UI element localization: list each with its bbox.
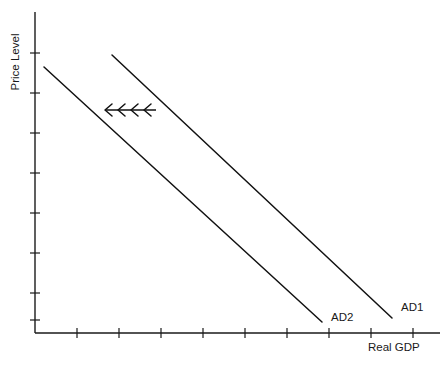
curve-label-ad1: AD1 bbox=[401, 301, 423, 313]
x-axis-title: Real GDP bbox=[368, 341, 420, 353]
leftward-shift-arrow bbox=[105, 104, 156, 116]
y-axis bbox=[30, 12, 40, 333]
curve-label-ad2: AD2 bbox=[331, 311, 353, 323]
y-axis-title: Price Level bbox=[9, 26, 21, 98]
x-axis bbox=[35, 328, 440, 338]
chart-plot-area bbox=[0, 0, 446, 370]
curve-ad2 bbox=[44, 67, 322, 322]
aggregate-demand-shift-chart: Price Level Real GDP AD2 AD1 bbox=[0, 0, 446, 370]
curve-ad1 bbox=[112, 55, 392, 318]
